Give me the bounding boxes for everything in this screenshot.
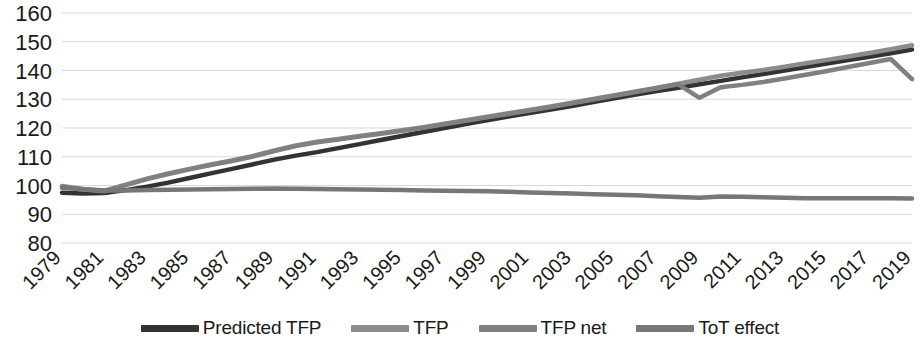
x-axis-tick-labels: 1979198119831985198719891991199319951997…	[18, 246, 915, 293]
x-tick-label: 2007	[613, 246, 660, 293]
y-tick-label: 100	[15, 174, 52, 199]
legend-swatch-icon	[351, 325, 409, 332]
x-tick-label: 2019	[868, 246, 915, 293]
x-tick-label: 2017	[825, 246, 872, 293]
x-tick-label: 1987	[188, 246, 235, 293]
x-tick-label: 2009	[655, 246, 702, 293]
x-tick-label: 2013	[740, 246, 787, 293]
x-tick-label: 1983	[103, 246, 150, 293]
y-tick-label: 160	[15, 1, 52, 26]
x-tick-label: 1979	[18, 246, 65, 293]
y-tick-label: 110	[17, 145, 52, 170]
legend-swatch-icon	[636, 325, 694, 332]
x-tick-label: 1989	[230, 246, 277, 293]
data-series-group	[62, 45, 912, 198]
x-tick-label: 1995	[358, 246, 405, 293]
x-tick-label: 1991	[273, 246, 320, 293]
y-axis-tick-labels: 8090100110120130140150160	[15, 1, 52, 256]
x-tick-label: 1985	[145, 246, 192, 293]
y-tick-label: 90	[28, 202, 52, 227]
legend-item-predicted-tfp[interactable]: Predicted TFP	[141, 317, 322, 339]
line-chart: 8090100110120130140150160 19791981198319…	[0, 0, 920, 344]
legend-swatch-icon	[479, 325, 537, 332]
y-tick-label: 140	[15, 59, 52, 84]
y-tick-label: 150	[15, 30, 52, 55]
legend-label: TFP net	[541, 317, 607, 339]
legend-label: Predicted TFP	[203, 317, 322, 339]
x-tick-label: 2005	[570, 246, 617, 293]
legend-label: TFP	[413, 317, 448, 339]
series-line-tot-effect	[62, 188, 912, 199]
legend-item-tfp[interactable]: TFP	[351, 317, 448, 339]
legend-item-tot-effect[interactable]: ToT effect	[636, 317, 779, 339]
series-line-tfp-net	[62, 59, 912, 191]
y-tick-label: 130	[15, 87, 52, 112]
x-tick-label: 2015	[783, 246, 830, 293]
legend-item-tfp-net[interactable]: TFP net	[479, 317, 607, 339]
x-tick-label: 2003	[528, 246, 575, 293]
gridlines	[62, 13, 912, 243]
legend-swatch-icon	[141, 325, 199, 332]
x-tick-label: 2011	[699, 246, 745, 292]
x-tick-label: 1981	[60, 246, 107, 293]
x-tick-label: 2001	[485, 246, 532, 293]
legend-label: ToT effect	[698, 317, 779, 339]
x-tick-label: 1997	[400, 246, 447, 293]
x-tick-label: 1999	[443, 246, 490, 293]
y-tick-label: 120	[15, 116, 52, 141]
chart-plot-area: 8090100110120130140150160 19791981198319…	[0, 0, 920, 344]
series-line-predicted-tfp	[62, 50, 912, 194]
chart-legend: Predicted TFPTFPTFP netToT effect	[0, 312, 920, 344]
x-tick-label: 1993	[315, 246, 362, 293]
